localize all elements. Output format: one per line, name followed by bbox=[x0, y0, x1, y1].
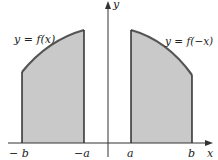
tick-neg-b: − b bbox=[9, 147, 29, 160]
tick-a: a bbox=[127, 147, 134, 160]
tick-neg-a: −a bbox=[74, 147, 90, 160]
reflection-diagram: y x − b −a a b y = f(x) y = f(−x) bbox=[0, 0, 218, 160]
tick-b: b bbox=[188, 147, 195, 160]
y-axis-arrow-icon bbox=[105, 1, 111, 9]
y-axis-label: y bbox=[112, 0, 120, 11]
right-curve-label: y = f(−x) bbox=[164, 35, 213, 47]
left-curve-label: y = f(x) bbox=[13, 33, 55, 46]
left-shaded-region bbox=[22, 30, 84, 143]
x-axis-label: x bbox=[207, 147, 214, 160]
x-axis-arrow-icon bbox=[205, 140, 213, 146]
